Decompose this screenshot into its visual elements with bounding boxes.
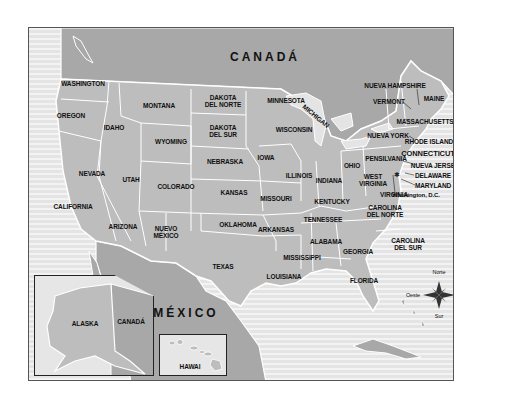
- label-state: DELAWARE: [415, 172, 451, 179]
- label-state: WASHINGTON: [61, 80, 105, 87]
- label-state: MASSACHUSETTS: [396, 118, 453, 125]
- label-state: DAKOTA DEL NORTE: [204, 94, 242, 108]
- label-state: NUEVA HAMPSHIRE: [364, 82, 425, 89]
- map-frame: ✱ CANADÁ MÉXICO WASHINGTON OREGON IDAHO …: [28, 27, 454, 381]
- label-state: NUEVA YORK: [367, 132, 409, 139]
- label-state: TEXAS: [212, 263, 233, 270]
- compass-west-label: Oeste: [406, 292, 420, 298]
- label-state: INDIANA: [316, 177, 342, 184]
- label-state: VERMONT: [373, 98, 405, 105]
- label-state: WISCONSIN: [276, 126, 313, 133]
- label-state: KENTUCKY: [314, 198, 349, 205]
- label-state: ILLINOIS: [286, 172, 313, 179]
- label-state: WYOMING: [155, 138, 187, 145]
- label-state: KANSAS: [221, 189, 248, 196]
- label-state: IDAHO: [104, 124, 124, 131]
- label-state: CAROLINA DEL NORTE: [365, 204, 405, 218]
- label-state: ARIZONA: [109, 223, 138, 230]
- label-state: CONNECTICUT: [401, 150, 454, 158]
- label-state: IOWA: [258, 154, 275, 161]
- compass-north-label: Norte: [433, 269, 446, 275]
- label-state: OHIO: [344, 162, 360, 169]
- hawaii-islands-graphic: [160, 335, 227, 376]
- label-canada-inset: CANADÁ: [117, 318, 145, 325]
- label-state: WEST VIRGINIA: [353, 173, 393, 187]
- label-state: NUEVO MÉXICO: [150, 225, 182, 239]
- label-state: MAINE: [424, 95, 444, 102]
- compass-south-label: Sur: [435, 313, 443, 319]
- label-hawaii: HAWAI: [180, 363, 201, 370]
- label-state: NUEVA JERSEY: [411, 162, 454, 169]
- label-state: TENNESSEE: [304, 216, 342, 223]
- label-state: COLORADO: [157, 183, 194, 190]
- label-state: CAROLINA DEL SUR: [387, 237, 429, 251]
- label-state: OKLAHOMA: [219, 221, 256, 228]
- compass-rose: Norte Sur Oeste Este: [427, 270, 454, 314]
- label-state: CALIFORNIA: [53, 203, 92, 210]
- label-state: MINNESOTA: [267, 97, 305, 104]
- label-alaska: ALASKA: [72, 320, 98, 327]
- label-state: NEBRASKA: [207, 158, 243, 165]
- label-state: MISSISSIPPI: [283, 254, 321, 261]
- label-state: LOUISIANA: [267, 273, 302, 280]
- label-state: MONTANA: [143, 102, 175, 109]
- label-state: ALABAMA: [310, 238, 342, 245]
- capital-star-icon: ✱: [394, 171, 400, 179]
- label-state: RHODE ISLAND: [405, 138, 453, 145]
- alaska-inset: ALASKA CANADÁ: [34, 275, 154, 376]
- hawaii-inset: HAWAI: [159, 334, 227, 376]
- label-state: FLORIDA: [350, 277, 378, 284]
- label-state: GEORGIA: [343, 248, 373, 255]
- label-mexico: MÉXICO: [153, 307, 218, 320]
- cuba-island: [353, 339, 421, 359]
- label-canada: CANADÁ: [230, 51, 300, 64]
- label-state: ARKANSAS: [258, 226, 294, 233]
- label-capital: Washington, D.C.: [392, 192, 440, 199]
- label-state: MARYLAND: [415, 182, 451, 189]
- label-state: NEVADA: [79, 170, 105, 177]
- label-state: DAKOTA DEL SUR: [204, 124, 242, 138]
- label-state: UTAH: [122, 176, 139, 183]
- label-state: MISSOURI: [260, 195, 291, 202]
- label-state: OREGON: [57, 112, 85, 119]
